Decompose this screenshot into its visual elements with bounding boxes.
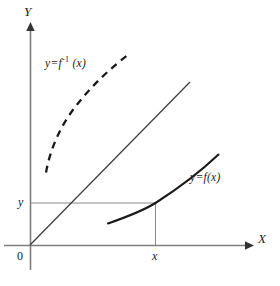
inverse-label-argument: (x) bbox=[72, 57, 86, 69]
y-value-tick-label: y bbox=[18, 196, 23, 208]
function-label-argument: (x) bbox=[207, 171, 221, 183]
x-value-tick-label: x bbox=[152, 250, 157, 262]
function-inverse-diagram: Y X 0 y x y=f-1 (x) y=f(x) bbox=[0, 0, 280, 286]
x-axis-arrowhead bbox=[245, 241, 254, 249]
inverse-function-curve bbox=[46, 55, 129, 173]
identity-line bbox=[30, 82, 190, 245]
inverse-label-exponent: -1 bbox=[62, 55, 69, 64]
function-label: y=f(x) bbox=[190, 172, 221, 184]
function-curve bbox=[108, 155, 219, 224]
y-axis-arrowhead bbox=[26, 22, 34, 31]
y-axis-label: Y bbox=[24, 5, 31, 18]
inverse-function-label: y=f-1 (x) bbox=[45, 58, 86, 70]
guide-lines bbox=[30, 203, 156, 245]
origin-label: 0 bbox=[17, 250, 23, 262]
diagram-canvas bbox=[0, 0, 280, 286]
x-axis-label: X bbox=[258, 232, 266, 245]
